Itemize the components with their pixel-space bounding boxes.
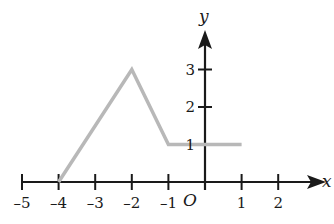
x-tick-label: 2 xyxy=(273,194,283,212)
x-tick-label: –5 xyxy=(13,194,30,212)
function-graph-figure: –5–4–3–2–112123xyO xyxy=(0,0,334,224)
x-tick-label: –3 xyxy=(87,194,104,212)
axes xyxy=(21,30,326,190)
x-axis-label: x xyxy=(322,171,332,191)
coordinate-plane: –5–4–3–2–112123xyO xyxy=(0,0,334,224)
x-tick-label: 1 xyxy=(237,194,247,212)
x-tick-label: –4 xyxy=(50,194,67,212)
graph-line xyxy=(59,70,242,183)
y-tick-label: 2 xyxy=(185,98,195,116)
y-tick-label: 1 xyxy=(185,136,195,154)
origin-label: O xyxy=(183,190,197,210)
y-axis-label: y xyxy=(198,6,209,26)
function-polyline xyxy=(59,70,242,183)
y-tick-label: 3 xyxy=(185,61,195,79)
x-tick-label: –1 xyxy=(160,194,177,212)
x-tick-label: –2 xyxy=(123,194,140,212)
